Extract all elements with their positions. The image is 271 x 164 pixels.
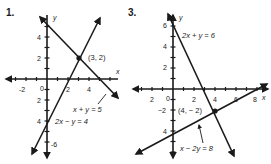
graph-1-x-tick-neg2: -2 [19,86,25,93]
graph-1-x-label: x [115,68,120,75]
graph-3-intersection-label: (4, − 2) [178,106,202,115]
graph-3-y-tick-2: 2 [163,64,167,71]
graph-1-y-tick-neg6: -6 [51,141,57,148]
graph-1-intersection-point [76,55,81,60]
graph-3-callout-line [199,125,203,143]
graph-3-y-tick-neg2: −2 [158,107,166,114]
graph-3: y x 2 0 2 4 6 8 6 4 2 −2 4 2x + y = 6 (4… [133,14,268,158]
graph-1-eq-2x-minus-y: 2x − y = 4 [54,117,88,126]
graph-1-y-tick-neg2: 2 [37,97,41,104]
graph-1-x-tick-2: 2 [66,86,70,93]
graph-1-y-tick-4: 4 [37,34,41,41]
graph-3-x-tick-6: 6 [234,96,238,103]
graph-3-x-tick-8: 8 [253,96,257,103]
graph-1-y-label: y [52,14,57,22]
graph-3-x-tick-2: 2 [192,96,196,103]
graph-1-y-tick-2: 2 [37,55,41,62]
graph-3-y-tick-6: 6 [163,22,167,29]
graph-1-callout-line [98,94,106,104]
graph-3-y-tick-neg4: 4 [163,128,167,135]
graph-3-x-tick-neg2: 2 [150,96,154,103]
graph-1-x-tick-4: 4 [87,86,91,93]
graph-3-x-label: x [261,94,266,101]
graph-1-eq-x-plus-y: x + y = 5 [72,105,103,114]
graph-3-x-tick-4: 4 [213,96,217,103]
graph-3-y-label: y [178,14,183,22]
graph-3-eq-2x-plus-y: 2x + y = 6 [181,31,216,40]
graph-1-x-tick-0: 0 [40,85,44,92]
graph-3-intersection-point [212,108,217,113]
graph-1: y x -2 0 2 4 4 2 2 4 -6 (3, 2) x + y = 5… [6,14,120,158]
graph-3-x-tick-0: 0 [166,95,170,102]
graph-3-y-tick-4: 4 [163,43,167,50]
graph-1-y-tick-neg4: 4 [37,118,41,125]
graphs-canvas: y x -2 0 2 4 4 2 2 4 -6 (3, 2) x + y = 5… [0,0,271,164]
graph-3-eq-x-minus-2y: x − 2y = 8 [179,144,214,153]
graph-1-intersection-label: (3, 2) [88,53,106,62]
